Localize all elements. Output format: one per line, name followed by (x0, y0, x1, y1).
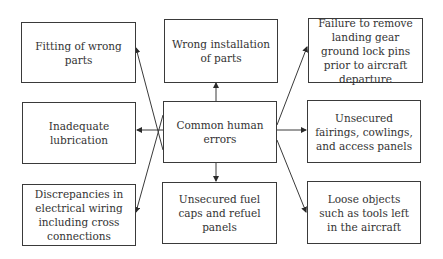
node-label: Inadequate lubrication (44, 119, 114, 147)
node-label: Unsecured fairings, cowlings, and access… (312, 111, 416, 153)
arrow-to-landing-gear-pins (277, 47, 307, 125)
node-label: Failure to remove landing gear ground lo… (313, 16, 418, 86)
arrow-to-loose-objects (277, 140, 306, 212)
node-inadequate-lubrication: Inadequate lubrication (22, 102, 136, 164)
arrow-to-fitting-of-wrong-parts (136, 48, 163, 150)
node-common-human-errors: Common human errors (163, 101, 277, 163)
node-loose-objects: Loose objects such as tools left in the … (307, 181, 421, 244)
node-electrical-wiring-discrepancies: Discrepancies in electrical wiring inclu… (22, 184, 136, 246)
node-label: Discrepancies in electrical wiring inclu… (31, 187, 127, 243)
node-wrong-installation-of-parts: Wrong installation of parts (164, 19, 278, 83)
node-label: Loose objects such as tools left in the … (314, 192, 414, 234)
node-label: Unsecured fuel caps and refuel panels (167, 192, 272, 234)
center-label: Common human errors (175, 118, 265, 146)
node-landing-gear-lock-pins: Failure to remove landing gear ground lo… (308, 18, 423, 83)
node-label: Fitting of wrong parts (34, 39, 124, 67)
node-unsecured-fuel-caps: Unsecured fuel caps and refuel panels (162, 182, 277, 244)
node-fitting-of-wrong-parts: Fitting of wrong parts (21, 22, 136, 83)
node-label: Wrong installation of parts (171, 37, 271, 65)
node-unsecured-fairings: Unsecured fairings, cowlings, and access… (307, 100, 421, 163)
diagram-canvas: Fitting of wrong parts Wrong installatio… (0, 0, 443, 259)
